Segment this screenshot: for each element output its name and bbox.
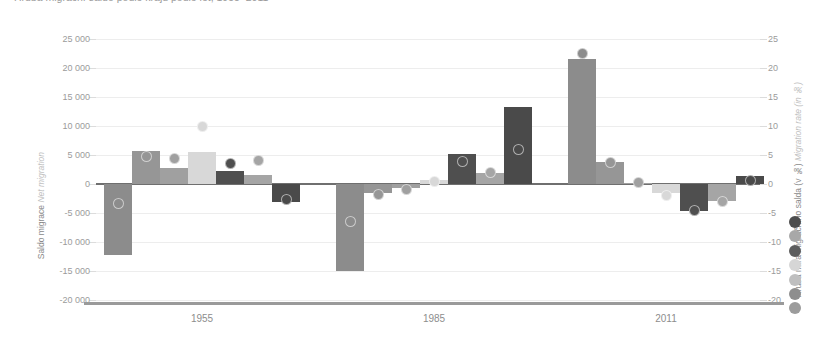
gridline [96,126,760,127]
tick-mark-left [89,97,96,98]
data-point-dot [169,153,180,164]
data-point-dot [197,121,208,132]
legend [789,216,801,317]
bar [188,152,216,184]
data-point-dot [113,198,124,209]
x-axis-group-label: 2011 [548,313,784,324]
tick-mark-right [760,300,767,301]
data-point-dot [401,184,412,195]
data-point-dot [281,194,292,205]
data-point-dot [633,177,644,188]
tick-mark-left [89,300,96,301]
left-axis-title-en: Net migration [36,152,46,203]
chart-root: Hrubá migrační saldo podle krajů podle l… [0,0,832,338]
tick-mark-right [760,68,767,69]
y-axis-tick-left: 10 000 [62,121,90,131]
tick-mark-right [760,126,767,127]
tick-mark-left [89,155,96,156]
gridline [96,39,760,40]
tick-mark-left [89,242,96,243]
x-axis-group-label: 1955 [84,313,320,324]
data-point-dot [513,144,524,155]
y-axis-tick-left: 15 000 [62,92,90,102]
y-axis-tick-right: 10 [768,121,778,131]
right-axis-title-en: Migration rate (in ‰) [793,82,803,161]
y-axis-tick-right: -10 [768,237,781,247]
tick-mark-left [89,68,96,69]
data-point-dot [717,196,728,207]
gridline [96,300,760,301]
tick-mark-right [760,271,767,272]
data-point-dot [141,151,152,162]
tick-mark-right [760,213,767,214]
left-axis-title-cz: Saldo migrace [36,205,46,259]
bar [104,184,132,255]
data-point-dot [429,176,440,187]
bar [216,171,244,184]
legend-swatch[interactable] [789,302,801,314]
data-point-dot [661,190,672,201]
tick-mark-right [760,39,767,40]
tick-mark-left [89,271,96,272]
data-point-dot [485,167,496,178]
data-point-dot [689,205,700,216]
plot-area: 25 0002520 0002015 0001510 000105 000500… [96,39,760,300]
y-axis-tick-left: 25 000 [62,34,90,44]
gridline [96,213,760,214]
y-axis-tick-left: -5 000 [64,208,90,218]
tick-mark-left [89,184,96,185]
legend-swatch[interactable] [789,288,801,300]
data-point-dot [253,155,264,166]
data-point-dot [577,48,588,59]
y-axis-tick-right: 0 [768,179,773,189]
y-axis-tick-left: 5 000 [67,150,90,160]
data-point-dot [745,175,756,186]
gridline [96,68,760,69]
y-axis-tick-left: -10 000 [59,237,90,247]
tick-mark-right [760,97,767,98]
y-axis-tick-right: 15 [768,92,778,102]
bar [160,168,188,184]
x-axis-group-label: 1985 [316,313,552,324]
tick-mark-left [89,126,96,127]
tick-mark-right [760,242,767,243]
left-axis-title: Saldo migrace Net migration [36,152,47,259]
group-rule [84,302,320,305]
data-point-dot [225,158,236,169]
group-rule [316,302,552,305]
legend-swatch[interactable] [789,245,801,257]
y-axis-tick-left: 0 [85,179,90,189]
legend-swatch[interactable] [789,274,801,286]
gridline [96,271,760,272]
group-rule [548,302,784,305]
gridline [96,97,760,98]
legend-swatch[interactable] [789,230,801,242]
y-axis-tick-right: -15 [768,266,781,276]
legend-swatch[interactable] [789,216,801,228]
gridline [96,242,760,243]
y-axis-tick-left: 20 000 [62,63,90,73]
y-axis-tick-right: -5 [768,208,776,218]
data-point-dot [457,156,468,167]
bar [336,184,364,271]
tick-mark-right [760,155,767,156]
tick-mark-left [89,213,96,214]
chart-title: Hrubá migrační saldo podle krajů podle l… [14,0,434,5]
y-axis-tick-right: 20 [768,63,778,73]
bar [244,175,272,184]
legend-swatch[interactable] [789,259,801,271]
tick-mark-right [760,184,767,185]
data-point-dot [605,157,616,168]
data-point-dot [345,216,356,227]
y-axis-tick-right: 25 [768,34,778,44]
data-point-dot [373,189,384,200]
y-axis-tick-left: -15 000 [59,266,90,276]
tick-mark-left [89,39,96,40]
bar [568,59,596,184]
y-axis-tick-right: 5 [768,150,773,160]
